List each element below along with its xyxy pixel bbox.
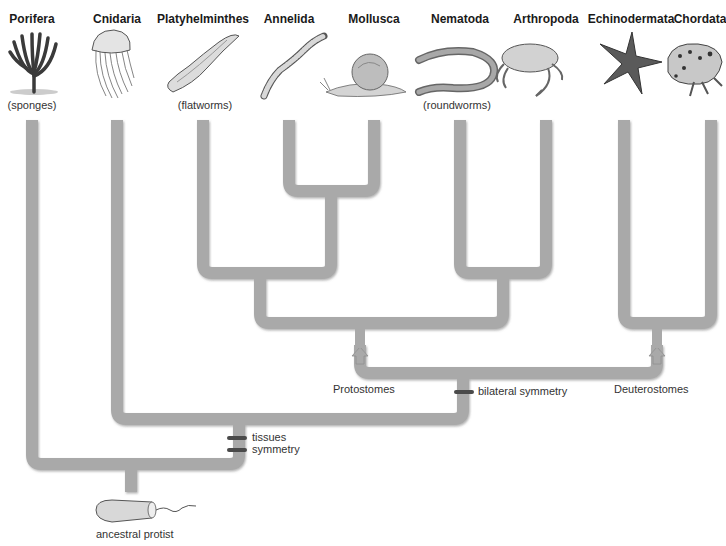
branch-bilateria [360,345,657,373]
protist-illustration-icon [92,496,202,526]
flatworm-illustration-icon [163,28,243,98]
snail-illustration-icon [318,48,408,100]
trait-label-bilateral-symmetry: bilateral symmetry [478,385,567,397]
root-label-ancestral-protist: ancestral protist [96,528,174,540]
branch-protostomes [260,273,503,323]
trait-label-tissues: tissues [252,431,286,443]
taxon-label-chordata: Chordata [674,12,726,26]
taxon-label-porifera: Porifera [9,12,54,26]
roundworm-illustration-icon [413,46,503,96]
crab-illustration-icon [492,36,572,100]
sponge-illustration-icon [4,28,64,96]
taxon-label-nematoda: Nematoda [431,12,489,26]
taxon-label-echinodermata: Echinodermata [588,12,675,26]
clade-label-protostomes: Protostomes [333,383,395,395]
branch-deuterostomes [624,120,711,323]
trait-label-symmetry: symmetry [252,443,300,455]
taxon-label-mollusca: Mollusca [348,12,399,26]
common-name-flatworms: (flatworms) [178,99,232,111]
jellyfish-illustration-icon [88,28,138,100]
clade-label-deuterostomes: Deuterostomes [614,383,689,395]
taxon-label-annelida: Annelida [264,12,315,26]
starfish-illustration-icon [596,30,666,96]
taxon-label-arthropoda: Arthropoda [513,12,578,26]
frog-illustration-icon [664,38,726,98]
branch-ecdysozoa [460,120,546,273]
taxon-label-cnidaria: Cnidaria [93,12,141,26]
common-name-roundworms: (roundworms) [423,99,491,111]
common-name-sponges: (sponges) [8,99,57,111]
taxon-label-platyhelminthes: Platyhelminthes [157,12,249,26]
branch-annelida-mollusca [289,120,374,191]
